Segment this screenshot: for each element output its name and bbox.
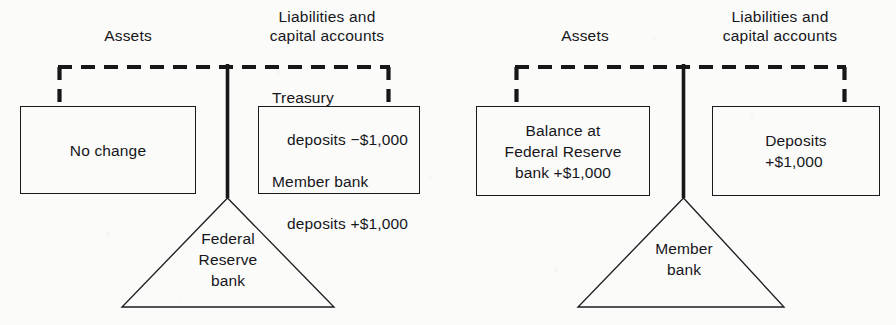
- liabilities-box-member-bank: Deposits +$1,000: [712, 106, 880, 196]
- assets-box-member-bank: Balance at Federal Reserve bank +$1,000: [476, 106, 650, 196]
- liability-line-4: deposits +$1,000: [272, 213, 408, 234]
- assets-box-text-member-bank: Balance at Federal Reserve bank +$1,000: [505, 120, 622, 183]
- column-heading-liabilities-federal-reserve: Liabilities and capital accounts: [237, 7, 417, 45]
- liabilities-box-text-federal-reserve: Treasury deposits −$1,000 Member bank de…: [270, 66, 408, 234]
- entity-label-member-bank: Member bank: [628, 238, 740, 280]
- liability-line-1: Treasury: [272, 89, 334, 106]
- liabilities-box-text-member-bank: Deposits +$1,000: [765, 130, 827, 172]
- column-heading-liabilities-member-bank: Liabilities and capital accounts: [690, 7, 870, 45]
- column-heading-assets-member-bank: Assets: [535, 26, 635, 45]
- liability-line-3: Member bank: [272, 173, 368, 190]
- entity-label-federal-reserve-bank: Federal Reserve bank: [168, 228, 288, 291]
- figure-canvas: Assets Liabilities and capital accounts …: [0, 0, 896, 325]
- liabilities-box-federal-reserve: Treasury deposits −$1,000 Member bank de…: [258, 106, 420, 194]
- column-heading-assets-federal-reserve: Assets: [78, 26, 178, 45]
- liability-line-2: deposits −$1,000: [272, 129, 408, 150]
- assets-box-text-federal-reserve: No change: [70, 140, 146, 161]
- assets-box-federal-reserve: No change: [20, 106, 196, 194]
